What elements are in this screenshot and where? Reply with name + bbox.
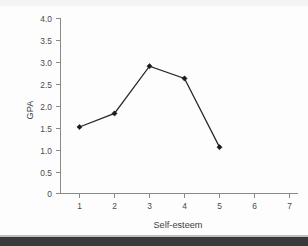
y-tick-label-0: 0 — [47, 189, 52, 199]
x-tick-label-2: 2 — [112, 201, 117, 211]
data-point — [217, 145, 222, 150]
x-axis-title: Self-esteem — [153, 220, 202, 230]
y-tick-label-1.5: 1.5 — [40, 124, 52, 134]
chart-figure: 4.0 3.5 3.0 2.5 2.0 1.5 1.0 0.5 0 1 2 3 … — [0, 0, 308, 246]
footer-band — [0, 237, 308, 246]
x-tick-label-3: 3 — [147, 201, 152, 211]
x-tick-label-1: 1 — [77, 201, 82, 211]
y-axis-title: GPA — [25, 100, 35, 120]
y-tick-label-1.0: 1.0 — [40, 146, 52, 156]
y-tick-label-2.0: 2.0 — [40, 102, 52, 112]
line-chart-plot: 4.0 3.5 3.0 2.5 2.0 1.5 1.0 0.5 0 1 2 3 … — [0, 0, 308, 246]
x-tick-label-7: 7 — [287, 201, 292, 211]
x-tick-label-6: 6 — [252, 201, 257, 211]
data-series-line — [80, 66, 220, 147]
data-series-markers — [77, 64, 222, 150]
x-tick-label-5: 5 — [217, 201, 222, 211]
y-tick-label-4.0: 4.0 — [40, 14, 52, 24]
y-tick-label-2.5: 2.5 — [40, 80, 52, 90]
y-tick-label-0.5: 0.5 — [40, 168, 52, 178]
x-tick-label-4: 4 — [182, 201, 187, 211]
y-tick-label-3.5: 3.5 — [40, 36, 52, 46]
y-tick-label-3.0: 3.0 — [40, 58, 52, 68]
data-point — [77, 124, 82, 129]
data-point — [182, 76, 187, 81]
